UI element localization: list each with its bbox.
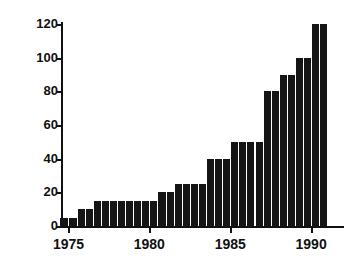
bar: [149, 201, 157, 226]
bar: [85, 209, 93, 226]
x-axis-line: [61, 226, 344, 228]
y-tick-label: 120: [36, 16, 58, 31]
bar: [117, 201, 125, 226]
bar: [214, 159, 222, 226]
x-tick-label: 1985: [215, 236, 246, 252]
y-tick-label: 80: [44, 83, 58, 98]
bar: [287, 75, 295, 227]
bar: [222, 159, 230, 226]
bar: [174, 184, 182, 226]
bar: [295, 58, 303, 226]
bar: [311, 24, 319, 226]
bar: [141, 201, 149, 226]
bar: [109, 201, 117, 226]
x-tick-label: 1990: [296, 236, 327, 252]
bar: [68, 218, 76, 226]
bar: [303, 58, 311, 226]
x-tick-label: 1980: [134, 236, 165, 252]
y-tick-label: 60: [44, 117, 58, 132]
x-tick-label: 1975: [53, 236, 84, 252]
bar: [60, 218, 68, 226]
bar: [198, 184, 206, 226]
bar: [182, 184, 190, 226]
bar: [238, 142, 246, 226]
plot-area: [62, 24, 337, 226]
bar: [101, 201, 109, 226]
x-tick-mark: [230, 226, 232, 233]
y-tick-label: 0: [51, 218, 58, 233]
y-tick-label: 100: [36, 50, 58, 65]
bar: [125, 201, 133, 226]
x-tick-mark: [149, 226, 151, 233]
bar: [230, 142, 238, 226]
bar: [271, 91, 279, 226]
bar: [206, 159, 214, 226]
bar: [255, 142, 263, 226]
bar: [157, 192, 165, 226]
x-tick-mark: [311, 226, 313, 233]
bar: [133, 201, 141, 226]
bar: [263, 91, 271, 226]
x-tick-mark: [68, 226, 70, 233]
bar: [93, 201, 101, 226]
bar: [279, 75, 287, 227]
bar: [166, 192, 174, 226]
bar: [319, 24, 327, 226]
bar: [77, 209, 85, 226]
y-tick-label: 20: [44, 184, 58, 199]
bar: [246, 142, 254, 226]
bar: [190, 184, 198, 226]
y-tick-label: 40: [44, 151, 58, 166]
bar-chart-figure: 020406080100120 1975198019851990: [0, 0, 353, 261]
